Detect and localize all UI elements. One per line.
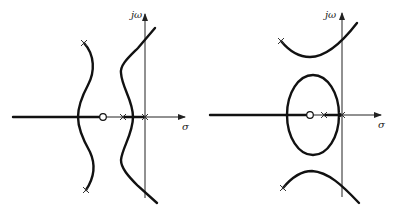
imag-axis-label: jω [129,9,142,20]
locus-branch-lower [283,171,359,203]
root-locus-figure: jω σ jω σ [0,0,394,219]
real-axis-label: σ [182,121,190,132]
right-root-locus: jω σ [210,9,386,203]
imag-axis-label: jω [323,9,336,20]
pole-marker [280,185,286,191]
real-axis-label: σ [378,119,386,130]
zero-marker [100,114,107,121]
pole-marker [81,40,87,46]
left-root-locus: jω σ [13,9,190,203]
zero-marker [307,112,314,119]
locus-branch-upper [281,23,357,57]
pole-marker [278,38,284,44]
locus-branch-asymptotic [121,28,157,203]
